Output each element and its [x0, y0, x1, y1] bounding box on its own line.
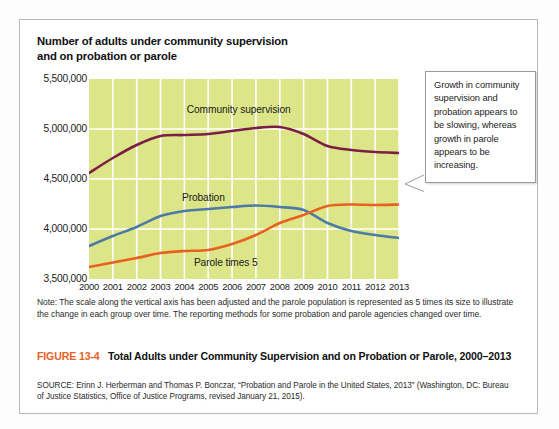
x-axis-tick-label: 2003 [151, 281, 171, 292]
chart-title-line-2: and on probation or parole [37, 49, 407, 64]
chart-title: Number of adults under community supervi… [37, 34, 407, 64]
y-axis-tick-label: 3,500,000 [15, 273, 87, 284]
figure-frame: Number of adults under community supervi… [19, 19, 538, 414]
chart-note: Note: The scale along the vertical axis … [37, 297, 517, 320]
x-axis-tick-label: 2011 [342, 281, 361, 292]
series-label-probation: Probation [182, 192, 225, 203]
x-axis-tick-label: 2000 [79, 281, 99, 292]
figure-source: SOURCE: Erinn J. Herberman and Thomas P.… [37, 380, 517, 402]
x-axis-tick-label: 2004 [174, 281, 194, 292]
y-axis-tick-label: 5,000,000 [15, 123, 87, 134]
x-axis-tick-label: 2001 [103, 281, 123, 292]
x-axis-tick-label: 2012 [365, 281, 385, 292]
plot-area: Community supervisionProbationParole tim… [89, 79, 399, 279]
y-axis-tick-label: 4,500,000 [15, 173, 87, 184]
x-axis-tick-label: 2009 [294, 281, 314, 292]
x-axis-tick-label: 2007 [246, 281, 266, 292]
callout-box: Growth in community supervision and prob… [425, 71, 536, 183]
series-label-community-supervision: Community supervision [187, 104, 291, 115]
y-axis-labels: 3,500,0004,000,0004,500,0005,000,0005,50… [29, 79, 87, 279]
chart-title-line-1: Number of adults under community supervi… [37, 34, 407, 49]
figure-number: FIGURE 13-4 [37, 350, 100, 362]
x-axis-tick-label: 2008 [270, 281, 290, 292]
y-axis-tick-label: 4,000,000 [15, 223, 87, 234]
x-axis-tick-label: 2005 [198, 281, 218, 292]
x-axis-tick-label: 2010 [318, 281, 338, 292]
x-axis-tick-label: 2013 [389, 281, 409, 292]
y-axis-tick-label: 5,500,000 [15, 73, 87, 84]
figure-page: Number of adults under community supervi… [0, 0, 559, 429]
series-label-parole-times-5: Parole times 5 [194, 257, 258, 268]
figure-caption: FIGURE 13-4 Total Adults under Community… [37, 349, 517, 364]
x-axis-tick-label: 2006 [222, 281, 242, 292]
figure-caption-text: Total Adults under Community Supervision… [108, 350, 511, 362]
x-axis-labels: 2000200120022003200420052006200720082009… [89, 281, 399, 295]
x-axis-tick-label: 2002 [127, 281, 147, 292]
